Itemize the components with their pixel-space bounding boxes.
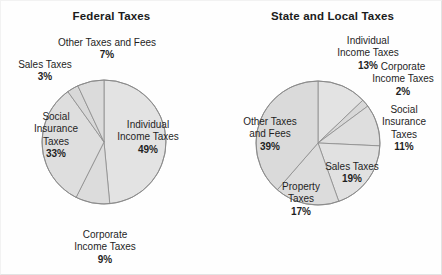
slice-label-corporate-income-taxes: Corporate Income Taxes 2% bbox=[363, 61, 442, 98]
slice-label-sales-taxes: Sales Taxes 3% bbox=[1, 59, 89, 84]
chart-panel-federal-taxes: Federal Taxes Other Taxes and Fees 7% Sa… bbox=[1, 1, 222, 275]
slice-label-individual-income-taxes: Individual Income Taxes 49% bbox=[109, 119, 187, 156]
slice-label-social-insurance-taxes: Social Insurance Taxes 11% bbox=[370, 104, 438, 154]
page-title-state-and-local-taxes: State and Local Taxes bbox=[222, 10, 442, 22]
page-title-federal-taxes: Federal Taxes bbox=[1, 10, 222, 22]
slice-label-other-taxes-and-fees: Other Taxes and Fees 39% bbox=[228, 116, 312, 153]
figure-container: Federal Taxes Other Taxes and Fees 7% Sa… bbox=[0, 0, 442, 275]
slice-label-social-insurance-taxes: Social Insurance Taxes 33% bbox=[20, 111, 92, 161]
slice-label-property-taxes: Property Taxes 17% bbox=[270, 181, 332, 218]
slice-label-corporate-income-taxes: Corporate Income Taxes 9% bbox=[58, 229, 152, 266]
chart-panel-state-and-local-taxes: State and Local Taxes Individual Income … bbox=[222, 1, 442, 275]
